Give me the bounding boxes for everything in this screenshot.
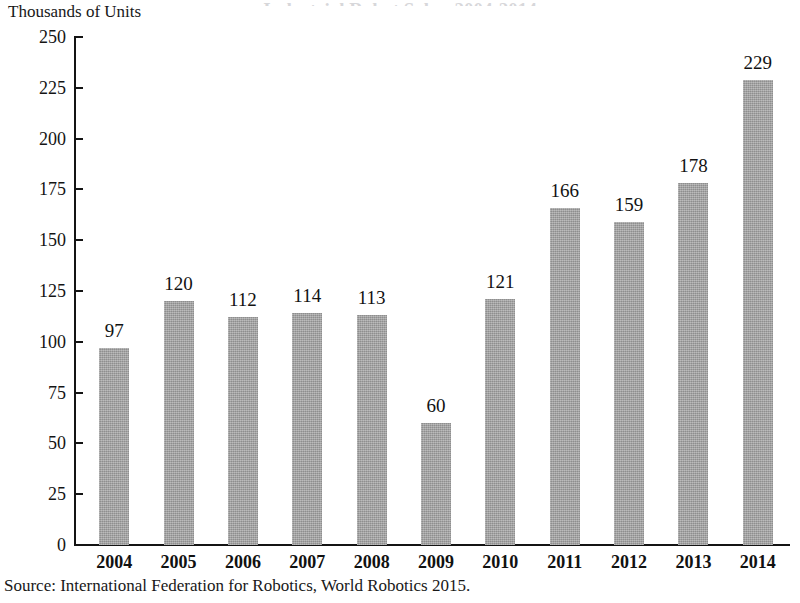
y-axis-tick	[74, 290, 83, 292]
x-axis-tick-label: 2012	[594, 552, 664, 572]
bar-value-label: 97	[79, 321, 149, 340]
bar-value-label: 113	[337, 288, 407, 307]
y-axis-tick-label: 0	[0, 536, 66, 554]
y-axis-tick-label: 75	[0, 384, 66, 402]
bar	[614, 222, 644, 545]
y-axis-tick	[74, 87, 83, 89]
y-axis-tick-label: 200	[0, 130, 66, 148]
bar-value-label: 121	[465, 272, 535, 291]
y-axis-tick	[74, 493, 83, 495]
y-axis-tick	[74, 544, 83, 546]
x-axis-tick-label: 2004	[79, 552, 149, 572]
y-axis-tick	[74, 341, 83, 343]
bar	[743, 80, 773, 545]
y-axis-tick-label: 150	[0, 231, 66, 249]
y-axis-tick	[74, 36, 83, 38]
y-axis-tick-label: 50	[0, 434, 66, 452]
y-axis-tick-label: 225	[0, 79, 66, 97]
x-axis-tick-label: 2007	[272, 552, 342, 572]
y-axis-tick	[74, 239, 83, 241]
bar-value-label: 166	[530, 181, 600, 200]
y-axis-tick-label: 100	[0, 333, 66, 351]
bar-value-label: 112	[208, 290, 278, 309]
y-axis-tick	[74, 442, 83, 444]
y-axis-tick-label: 175	[0, 180, 66, 198]
y-axis-tick-label: 25	[0, 485, 66, 503]
y-axis-tick-label: 250	[0, 28, 66, 46]
x-axis-tick-label: 2009	[401, 552, 471, 572]
bar-value-label: 159	[594, 195, 664, 214]
bar-value-label: 120	[144, 274, 214, 293]
x-axis-tick-label: 2005	[144, 552, 214, 572]
y-axis-tick	[74, 392, 83, 394]
x-axis-tick-label: 2013	[658, 552, 728, 572]
x-axis-tick-label: 2006	[208, 552, 278, 572]
bar	[292, 313, 322, 545]
x-axis-tick-label: 2008	[337, 552, 407, 572]
bar-value-label: 60	[401, 396, 471, 415]
bar	[357, 315, 387, 545]
bar	[99, 348, 129, 545]
bar-chart-plot-area: 2502252001751501251007550250 97120112114…	[0, 0, 800, 565]
x-axis-tick-label: 2010	[465, 552, 535, 572]
bar	[678, 183, 708, 545]
bar	[164, 301, 194, 545]
bar	[228, 317, 258, 545]
y-axis-tick-label: 125	[0, 282, 66, 300]
x-axis-tick-label: 2011	[530, 552, 600, 572]
bar-value-label: 114	[272, 286, 342, 305]
x-axis-tick-label: 2014	[723, 552, 793, 572]
y-axis-tick	[74, 138, 83, 140]
bar-value-label: 178	[658, 156, 728, 175]
y-axis-tick	[74, 188, 83, 190]
source-note: Source: International Federation for Rob…	[4, 575, 470, 596]
bar	[485, 299, 515, 545]
bar-value-label: 229	[723, 53, 793, 72]
bar	[421, 423, 451, 545]
bar	[550, 208, 580, 545]
